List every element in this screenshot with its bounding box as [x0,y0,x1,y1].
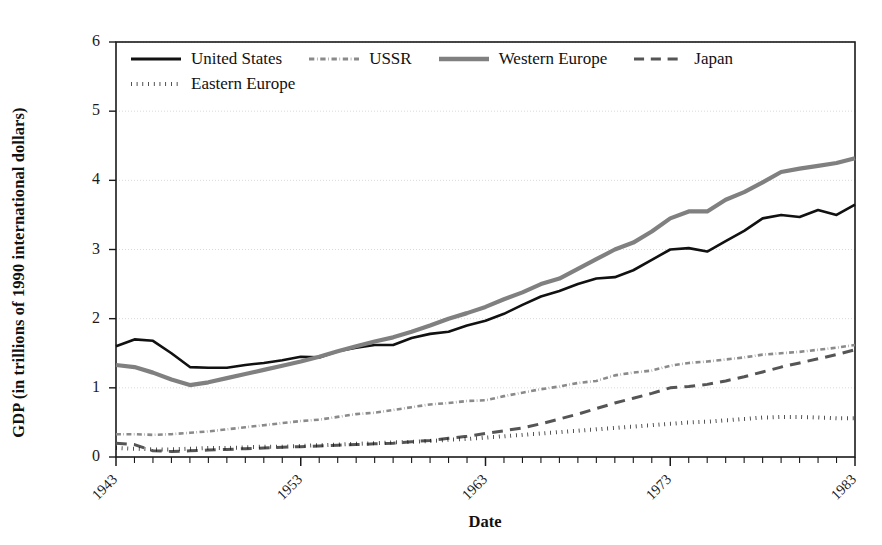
series-line-eastern-europe [116,417,855,450]
legend-line-icon [633,52,685,66]
legend-swatch-solid [130,52,182,66]
y-tick-label: 0 [74,447,100,465]
series-line-united-states [116,205,855,368]
legend-line-icon [308,52,360,66]
series-line-japan [116,350,855,452]
y-tick-label: 6 [74,32,100,50]
gdp-line-chart: GDP (in trillions of 1990 international … [0,0,882,545]
legend-swatch-solid [438,52,490,66]
y-tick-label: 2 [74,309,100,327]
legend-swatch-dotted [130,77,182,91]
legend-item-ussr[interactable]: USSR [308,50,412,67]
y-tick-label: 1 [74,378,100,396]
legend-label: Western Europe [499,50,608,67]
legend-item-eastern-europe[interactable]: Eastern Europe [130,75,295,92]
legend-swatch-long-dash [633,52,685,66]
y-tick-label: 4 [74,170,100,188]
legend-label: USSR [369,50,412,67]
legend-item-united-states[interactable]: United States [130,50,282,67]
legend-line-icon [130,52,182,66]
legend-item-western-europe[interactable]: Western Europe [438,50,608,67]
x-axis-title: Date [115,512,855,532]
legend-label: Japan [694,50,733,67]
chart-legend: United StatesUSSRWestern EuropeJapan Eas… [130,46,830,96]
legend-line-icon [130,77,182,91]
series-line-ussr [116,345,855,435]
series-line-western-europe [116,158,855,385]
legend-row-2: Eastern Europe [130,71,830,96]
y-tick-label: 5 [74,101,100,119]
legend-label: United States [191,50,282,67]
legend-line-icon [438,52,490,66]
legend-swatch-dash-dot [308,52,360,66]
legend-item-japan[interactable]: Japan [633,50,733,67]
y-axis-title: GDP (in trillions of 1990 international … [0,0,38,545]
legend-row-1: United StatesUSSRWestern EuropeJapan [130,46,830,71]
legend-label: Eastern Europe [191,75,295,92]
y-tick-label: 3 [74,240,100,258]
